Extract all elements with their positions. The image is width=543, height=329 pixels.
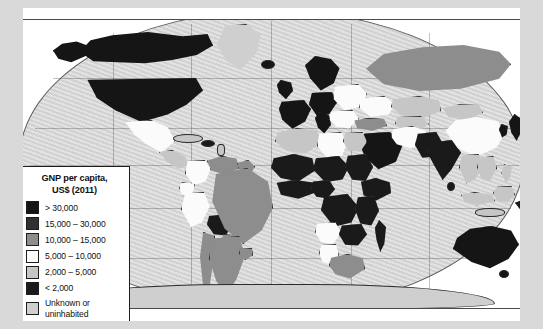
legend-row-lt-2000: < 2,000	[26, 282, 123, 295]
legend-label-10000-15000: 10,000 – 15,000	[45, 235, 106, 245]
legend-title: GNP per capita, US$ (2011)	[26, 173, 123, 196]
region-sri-lanka	[447, 182, 455, 191]
legend-swatch-lt-2000	[26, 282, 39, 295]
region-caribbean-lesser-antilles	[217, 144, 225, 156]
legend-row-gt-30000: > 30,000	[26, 201, 123, 214]
legend-title-line-2: US$ (2011)	[26, 185, 123, 197]
legend-label-lt-2000: < 2,000	[45, 283, 73, 293]
legend-row-15000-30000: 15,000 – 30,000	[26, 217, 123, 230]
legend-row-5000-10000: 5,000 – 10,000	[26, 250, 123, 263]
world-map-figure: GNP per capita, US$ (2011) > 30,000 15,0…	[23, 8, 520, 321]
region-indonesia-java	[475, 208, 505, 217]
legend-swatch-gt-30000	[26, 201, 39, 214]
map-top-clip	[23, 8, 520, 19]
legend-label-unknown: Unknown or uninhabited	[45, 298, 90, 319]
map-top-frame-line	[23, 19, 520, 20]
legend-swatch-5000-10000	[26, 250, 39, 263]
legend-row-unknown: Unknown or uninhabited	[26, 298, 123, 319]
graticule-line	[35, 128, 513, 129]
legend-swatch-unknown	[26, 302, 39, 315]
map-legend: GNP per capita, US$ (2011) > 30,000 15,0…	[23, 166, 130, 321]
legend-swatch-2000-5000	[26, 266, 39, 279]
legend-swatch-10000-15000	[26, 233, 39, 246]
legend-swatch-15000-30000	[26, 217, 39, 230]
legend-label-2000-5000: 2,000 – 5,000	[45, 267, 96, 277]
region-caribbean-hispaniola	[201, 140, 215, 147]
region-new-guinea	[515, 198, 520, 212]
legend-label-5000-10000: 5,000 – 10,000	[45, 251, 101, 261]
map-page-panel: GNP per capita, US$ (2011) > 30,000 15,0…	[23, 8, 520, 321]
legend-row-2000-5000: 2,000 – 5,000	[26, 266, 123, 279]
legend-title-line-1: GNP per capita,	[26, 173, 123, 185]
legend-label-15000-30000: 15,000 – 30,000	[45, 219, 106, 229]
page-background: GNP per capita, US$ (2011) > 30,000 15,0…	[0, 0, 543, 329]
region-caribbean-cuba	[173, 134, 203, 143]
region-tasmania	[499, 270, 509, 278]
region-iceland	[261, 60, 275, 69]
legend-row-10000-15000: 10,000 – 15,000	[26, 233, 123, 246]
legend-label-gt-30000: > 30,000	[45, 203, 78, 213]
